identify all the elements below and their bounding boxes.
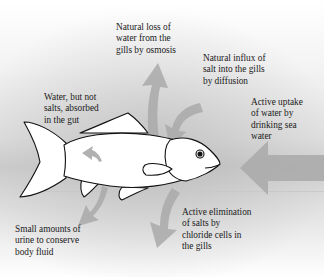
pelvic-fin <box>119 187 148 200</box>
label-salt-elimination: Active elimination of salts by chloride … <box>182 207 251 252</box>
salt-elimination-arrow <box>150 188 180 248</box>
label-water-loss: Natural loss of water from the gills by … <box>116 22 176 56</box>
tail-fin <box>20 122 66 197</box>
fish <box>20 113 220 200</box>
fish-pupil <box>198 152 202 156</box>
fish-head <box>165 138 220 181</box>
osmoregulation-diagram: Natural loss of water from the gills by … <box>0 0 324 277</box>
label-salt-influx: Natural influx of salt into the gills by… <box>203 53 265 87</box>
label-gut-absorption: Water, but not salts, absorbed in the gu… <box>44 92 99 126</box>
water-uptake-arrow <box>240 141 324 195</box>
label-water-uptake: Active uptake of water by drinking sea w… <box>251 97 303 142</box>
label-urine: Small amounts of urine to conserve body … <box>15 224 81 258</box>
